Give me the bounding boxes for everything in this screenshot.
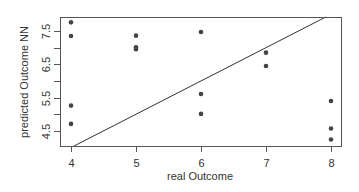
data-point (69, 20, 74, 25)
identity-reference-line (74, 17, 326, 146)
data-point (329, 99, 334, 104)
x-axis: 45678 (68, 146, 334, 169)
y-axis-label: predicted Outcome NN (18, 26, 30, 138)
x-tick-label: 7 (263, 157, 269, 169)
data-point (199, 30, 204, 35)
data-point (69, 34, 74, 39)
data-point (69, 103, 74, 108)
y-tick-label: 7.5 (40, 24, 52, 39)
x-axis-label: real Outcome (167, 170, 233, 182)
x-tick-label: 6 (198, 157, 204, 169)
data-point (199, 92, 204, 97)
data-point (134, 47, 139, 52)
data-point (264, 64, 269, 69)
y-tick-label: 6.5 (40, 57, 52, 72)
y-tick-label: 4.5 (40, 124, 52, 139)
plot-frame (61, 18, 342, 147)
data-point (264, 50, 269, 55)
data-point (199, 112, 204, 117)
scatter-chart: 45678 4.55.56.57.5 real Outcome predicte… (0, 0, 359, 192)
x-tick-label: 4 (68, 157, 74, 169)
y-tick-label: 5.5 (40, 91, 52, 106)
y-axis: 4.55.56.57.5 (40, 24, 60, 139)
data-point (69, 122, 74, 127)
x-tick-label: 8 (328, 157, 334, 169)
x-tick-label: 5 (133, 157, 139, 169)
data-point (329, 137, 334, 142)
data-point (134, 33, 139, 38)
data-point (329, 126, 334, 131)
identity-line (74, 17, 326, 146)
